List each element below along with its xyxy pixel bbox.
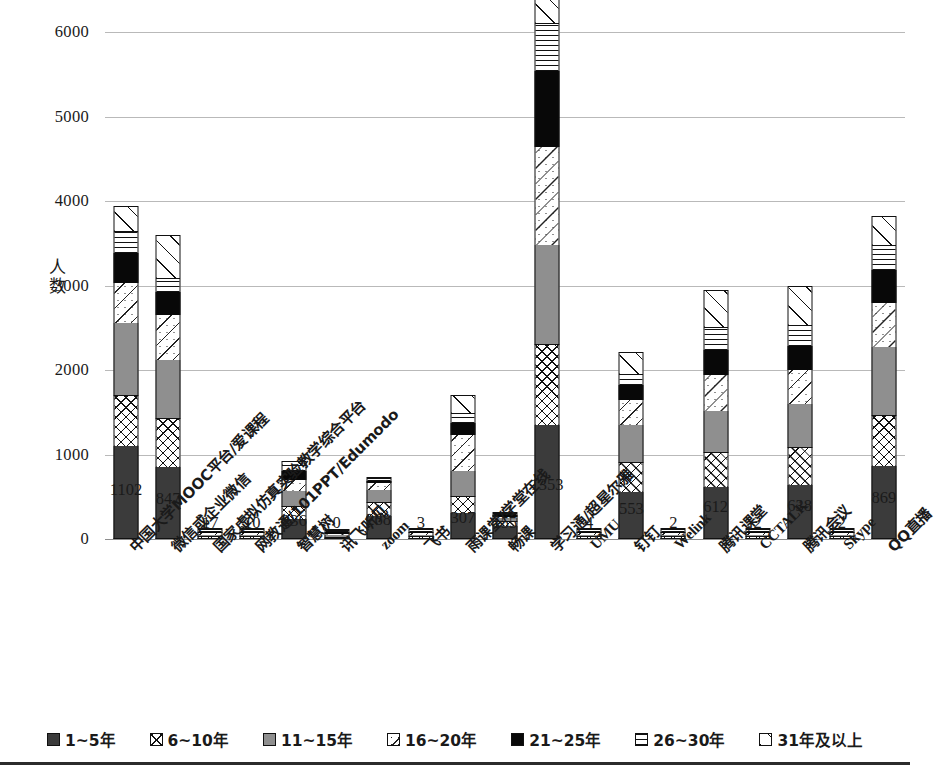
- bar-segment-6~10年[interactable]: [703, 452, 728, 487]
- bar-segment-31年及以上[interactable]: [787, 286, 812, 327]
- bar-segment-31年及以上[interactable]: [535, 0, 560, 24]
- bar-segment-6~10年[interactable]: [871, 415, 896, 466]
- legend-item[interactable]: 16~20年: [387, 728, 477, 750]
- bar-segment-11~15年[interactable]: [619, 425, 644, 462]
- legend-item[interactable]: 21~25年: [511, 728, 601, 750]
- legend-swatch-icon: [387, 733, 400, 746]
- bar-segment-26~30年[interactable]: [871, 246, 896, 270]
- stacked-bar[interactable]: [535, 0, 560, 539]
- legend-item[interactable]: 11~15年: [263, 728, 353, 750]
- bar-segment-26~30年[interactable]: [535, 24, 560, 70]
- bottom-rule: [0, 762, 910, 765]
- bar-segment-21~25年[interactable]: [156, 292, 181, 316]
- bar-segment-16~20年[interactable]: [156, 315, 181, 360]
- legend-swatch-icon: [150, 733, 163, 746]
- bar-segment-6~10年[interactable]: [156, 418, 181, 467]
- legend-item[interactable]: 6~10年: [150, 728, 229, 750]
- bar-segment-31年及以上[interactable]: [366, 477, 391, 479]
- bar-segment-16~20年[interactable]: [535, 147, 560, 245]
- y-tick-1000: 1000: [55, 445, 89, 465]
- legend-item[interactable]: 31年及以上: [759, 728, 863, 750]
- bar-group[interactable]: 268: [358, 32, 400, 539]
- legend-label: 1~5年: [65, 728, 116, 750]
- bar-segment-21~25年[interactable]: [703, 350, 728, 375]
- bar-segment-31年及以上[interactable]: [619, 352, 644, 375]
- bar-segment-16~20年[interactable]: [114, 283, 139, 323]
- bar-segment-21~25年[interactable]: [787, 346, 812, 371]
- bar-value-label: 17: [202, 513, 219, 533]
- bar-segment-21~25年[interactable]: [114, 253, 139, 283]
- bar-segment-26~30年[interactable]: [114, 232, 139, 253]
- bar-segment-31年及以上[interactable]: [450, 395, 475, 414]
- legend-label: 21~25年: [529, 728, 601, 750]
- bar-value-label: 2: [754, 513, 762, 533]
- bar-segment-26~30年[interactable]: [156, 279, 181, 292]
- bar-segment-26~30年[interactable]: [787, 326, 812, 345]
- legend-label: 6~10年: [168, 728, 229, 750]
- bar-segment-11~15年[interactable]: [871, 347, 896, 415]
- bar-segment-21~25年[interactable]: [366, 481, 391, 484]
- bar-segment-6~10年[interactable]: [787, 447, 812, 485]
- legend-label: 11~15年: [281, 728, 353, 750]
- bar-group[interactable]: 1353: [526, 32, 568, 539]
- bar-segment-21~25年[interactable]: [450, 423, 475, 436]
- legend-swatch-icon: [635, 733, 648, 746]
- legend-item[interactable]: 1~5年: [47, 728, 116, 750]
- bar-segment-16~20年[interactable]: [619, 400, 644, 425]
- bar-value-label: 553: [619, 499, 644, 519]
- bar-segment-16~20年[interactable]: [703, 375, 728, 411]
- bar-segment-31年及以上[interactable]: [703, 290, 728, 328]
- bar-segment-6~10年[interactable]: [114, 395, 139, 446]
- y-tick-4000: 4000: [55, 191, 89, 211]
- bar-group[interactable]: 3: [400, 32, 442, 539]
- bar-group[interactable]: 869: [863, 32, 905, 539]
- bar-segment-16~20年[interactable]: [366, 483, 391, 490]
- x-axis-tick-labels: 中国大学MOOC平台/爱课程微信或企业微信国家虚拟仿真实验教学综合平台网教通/1…: [105, 541, 905, 716]
- y-tick-0: 0: [80, 529, 89, 549]
- bar-segment-11~15年[interactable]: [703, 411, 728, 452]
- bar-value-label: 612: [703, 497, 728, 517]
- bar-group[interactable]: 10: [231, 32, 273, 539]
- bar-segment-21~25年[interactable]: [619, 385, 644, 400]
- bar-group[interactable]: 2: [652, 32, 694, 539]
- legend-swatch-icon: [263, 733, 276, 746]
- bar-segment-31年及以上[interactable]: [871, 216, 896, 246]
- bar-segment-21~25年[interactable]: [871, 270, 896, 303]
- bar-segment-11~15年[interactable]: [535, 245, 560, 345]
- bar-group[interactable]: 553: [610, 32, 652, 539]
- bar-segment-26~30年[interactable]: [703, 328, 728, 349]
- legend-swatch-icon: [47, 733, 60, 746]
- bar-value-label: 869: [872, 488, 897, 508]
- bar-group[interactable]: 1102: [105, 32, 147, 539]
- bar-value-label: 847: [156, 489, 181, 509]
- bar-segment-11~15年[interactable]: [450, 471, 475, 496]
- bar-group[interactable]: 612: [694, 32, 736, 539]
- bar-segment-16~20年[interactable]: [871, 303, 896, 348]
- bar-segment-11~15年[interactable]: [114, 323, 139, 396]
- bar-segment-26~30年[interactable]: [619, 375, 644, 385]
- bar-segment-6~10年[interactable]: [535, 344, 560, 424]
- bar-group[interactable]: 155: [484, 32, 526, 539]
- bar-value-label: 0: [332, 513, 340, 533]
- bar-segment-21~25年[interactable]: [535, 71, 560, 147]
- bar-group[interactable]: 307: [442, 32, 484, 539]
- bar-segment-26~30年[interactable]: [450, 414, 475, 422]
- bar-segment-26~30年[interactable]: [366, 479, 391, 481]
- bar-segment-11~15年[interactable]: [787, 404, 812, 447]
- bar-group[interactable]: 4: [568, 32, 610, 539]
- bar-segment-11~15年[interactable]: [156, 360, 181, 418]
- bar-value-label: 155: [493, 513, 518, 533]
- bar-group[interactable]: 638: [779, 32, 821, 539]
- y-tick-3000: 3000: [55, 276, 89, 296]
- bar-segment-31年及以上[interactable]: [114, 206, 139, 232]
- legend-label: 31年及以上: [777, 728, 863, 750]
- legend-item[interactable]: 26~30年: [635, 728, 725, 750]
- bar-segment-31年及以上[interactable]: [156, 235, 181, 279]
- y-tick-5000: 5000: [55, 107, 89, 127]
- bar-segment-16~20年[interactable]: [450, 435, 475, 470]
- bar-group[interactable]: 2: [737, 32, 779, 539]
- bar-segment-16~20年[interactable]: [787, 370, 812, 404]
- bar-group[interactable]: 847: [147, 32, 189, 539]
- bar-group[interactable]: 2: [821, 32, 863, 539]
